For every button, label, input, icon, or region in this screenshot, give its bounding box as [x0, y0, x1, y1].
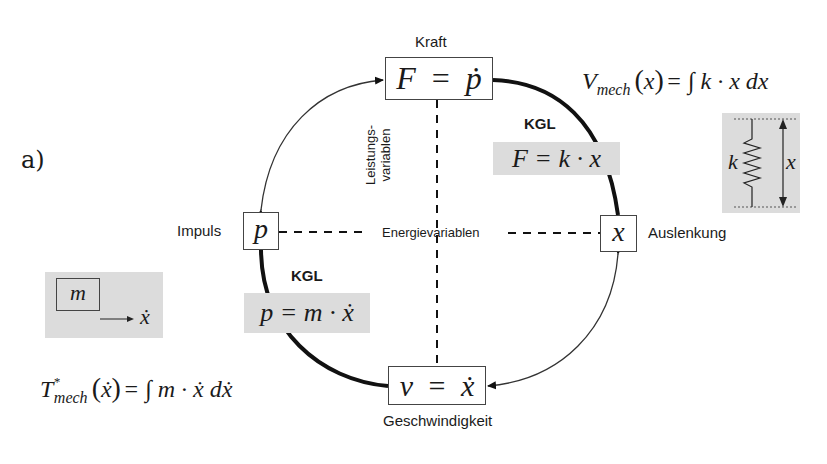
displacement-derivative-symbol: ẋ	[461, 369, 474, 402]
velocity-symbol: v	[400, 369, 413, 402]
potential-argument: x	[644, 68, 655, 94]
momentum-derivative-symbol: ṗ	[466, 60, 482, 96]
potential-symbol: V	[582, 68, 597, 94]
coenergy-symbol: T	[40, 376, 53, 402]
spring-kgl-tag: KGL	[524, 115, 556, 132]
geschwindigkeit-node: v = ẋ	[388, 366, 486, 405]
panel-label: a)	[21, 146, 45, 174]
coenergy-subscript: mech	[54, 389, 88, 406]
impuls-node: p	[243, 212, 279, 250]
potential-energy-formula: Vmech(x)= ∫ k · x dx	[582, 64, 768, 99]
equals-sign: =	[432, 60, 450, 96]
potential-subscript: mech	[597, 81, 631, 98]
spring-relation-formula: F = k · x	[512, 144, 601, 174]
power-variables-label-line1: Leistungs-	[363, 110, 378, 200]
auslenkung-label: Auslenkung	[648, 224, 726, 241]
coenergy-rhs: = ∫ m · ẋ dẋ	[123, 376, 232, 402]
geschwindigkeit-formula: v = ẋ	[400, 369, 475, 403]
mass-relation-formula: p = m · ẋ	[260, 298, 353, 328]
mass-sketch: m ẋ	[45, 272, 163, 338]
stiffness-symbol: k	[728, 149, 738, 175]
displacement-symbol: x	[612, 216, 624, 248]
equals-sign: =	[429, 369, 446, 402]
velocity-symbol: ẋ	[140, 304, 150, 330]
coenergy-argument: ẋ	[101, 376, 112, 402]
coenergy-superscript: *	[53, 374, 60, 389]
momentum-symbol: p	[254, 213, 268, 245]
mass-kgl-tag: KGL	[291, 267, 323, 284]
kraft-label: Kraft	[415, 33, 447, 50]
impuls-label: Impuls	[177, 222, 221, 239]
potential-rhs: = ∫ k · x dx	[666, 68, 769, 94]
power-variables-label-line2: variablen	[378, 110, 393, 200]
geschwindigkeit-label: Geschwindigkeit	[383, 412, 492, 429]
kinetic-coenergy-formula: T*mech(ẋ)= ∫ m · ẋ dẋ	[40, 372, 232, 407]
energy-variables-label: Energievariablen	[382, 225, 480, 240]
spring-sketch: k x	[722, 113, 800, 213]
spring-relation-box: F = k · x	[493, 142, 620, 175]
kraft-formula: F = ṗ	[396, 60, 482, 97]
auslenkung-node: x	[600, 215, 637, 252]
force-symbol: F	[396, 60, 416, 96]
kraft-node: F = ṗ	[385, 57, 493, 100]
power-variables-label: Leistungs- variablen	[363, 112, 433, 202]
integration-arc-right	[488, 254, 618, 386]
mass-relation-box: p = m · ẋ	[244, 293, 370, 333]
spring-displacement-symbol: x	[786, 149, 796, 175]
